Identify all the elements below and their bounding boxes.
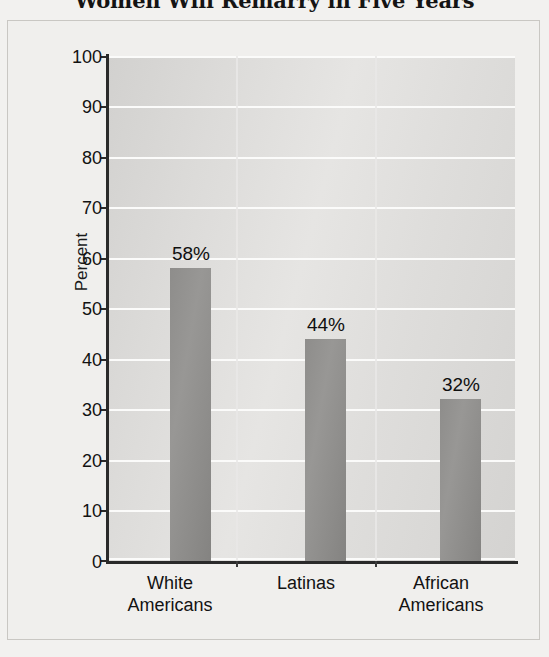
x-tick-label-white-americans: White Americans [95, 573, 245, 617]
y-axis-tick-labels: 100 90 80 70 60 50 40 30 20 10 0 [44, 0, 102, 657]
category-divider [375, 56, 377, 561]
y-tick-label: 40 [50, 351, 102, 369]
y-tick-label: 20 [50, 452, 102, 470]
x-tick-label-african-americans: African Americans [366, 573, 516, 617]
y-tick-label: 90 [50, 98, 102, 116]
y-tick-label: 80 [50, 149, 102, 167]
chart-title: Women Will Remarry in Five Years [0, 0, 549, 13]
y-tick-label: 10 [50, 502, 102, 520]
bar-value-white-americans: 58% [146, 243, 236, 265]
bar-value-latinas: 44% [281, 314, 371, 336]
y-tick-label: 100 [50, 48, 102, 66]
bar-african-americans [440, 399, 481, 561]
gridline [109, 157, 515, 159]
gridline [109, 106, 515, 108]
y-tick-label: 70 [50, 199, 102, 217]
y-tick-label: 60 [50, 250, 102, 268]
x-tickmark [236, 561, 238, 567]
x-tick-label-line1: African [366, 573, 516, 595]
gridline [109, 207, 515, 209]
y-tick-label: 30 [50, 401, 102, 419]
bar-white-americans [170, 268, 211, 561]
y-tick-label: 50 [50, 300, 102, 318]
x-tick-label-line1: White [95, 573, 245, 595]
plot-area [109, 56, 515, 561]
y-tick-label: 0 [50, 553, 102, 571]
x-tickmark [375, 561, 377, 567]
x-tick-label-line2: Americans [95, 595, 245, 617]
category-divider [236, 56, 238, 561]
x-tick-label-line1: Latinas [231, 573, 381, 595]
x-tick-label-line2: Americans [366, 595, 516, 617]
bar-latinas [305, 339, 346, 561]
x-tick-label-latinas: Latinas [231, 573, 381, 595]
x-axis-line [106, 561, 518, 564]
gridline [109, 56, 515, 58]
bar-value-african-americans: 32% [416, 374, 506, 396]
